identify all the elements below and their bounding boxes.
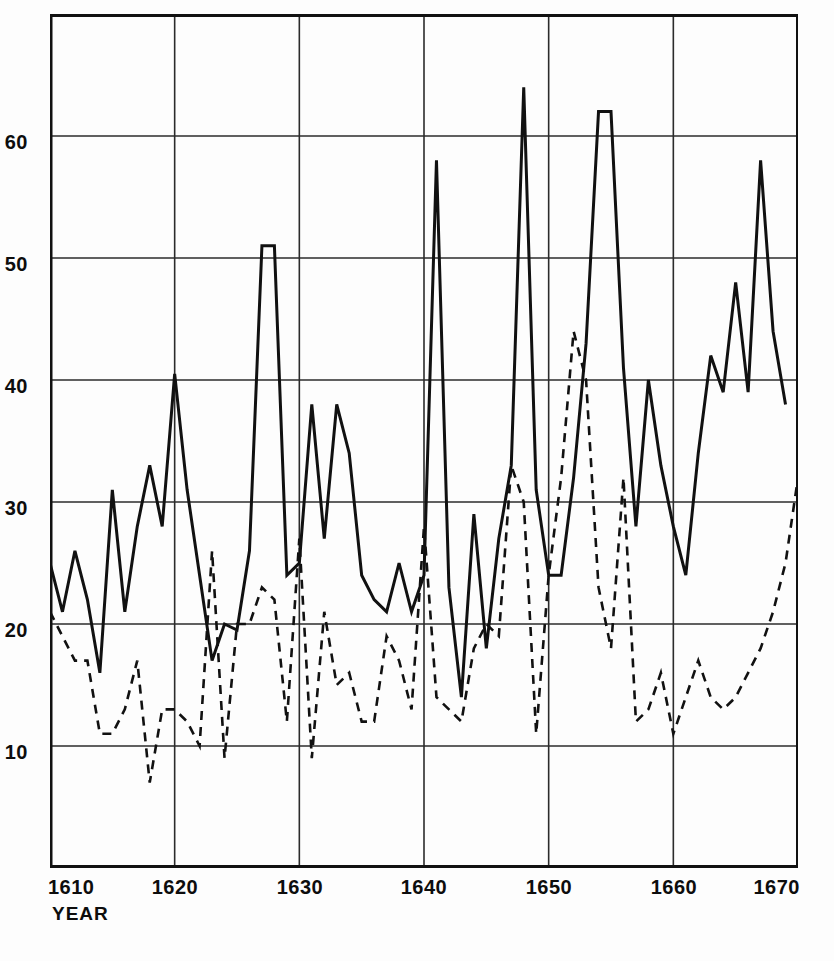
y-tick-label: 10 <box>0 742 28 762</box>
x-tick-label: 1660 <box>651 877 698 897</box>
chart-figure: 60 50 40 30 20 10 1610 1620 1630 1640 16… <box>0 0 834 961</box>
x-tick-label: 1620 <box>152 877 199 897</box>
x-tick-label: 1640 <box>401 877 448 897</box>
gridlines <box>50 14 798 868</box>
series-line-solid-series <box>50 87 786 697</box>
x-tick-label: 1610 <box>48 877 95 897</box>
x-tick-label: 1670 <box>754 877 801 897</box>
y-tick-label: 50 <box>0 254 28 274</box>
y-tick-label: 60 <box>0 132 28 152</box>
y-tick-label: 40 <box>0 376 28 396</box>
x-axis-title: YEAR <box>52 903 109 925</box>
y-tick-label: 20 <box>0 620 28 640</box>
plot-area <box>50 14 798 868</box>
chart-canvas <box>50 14 798 868</box>
x-tick-label: 1630 <box>277 877 324 897</box>
x-tick-label: 1650 <box>526 877 573 897</box>
y-tick-label: 30 <box>0 498 28 518</box>
